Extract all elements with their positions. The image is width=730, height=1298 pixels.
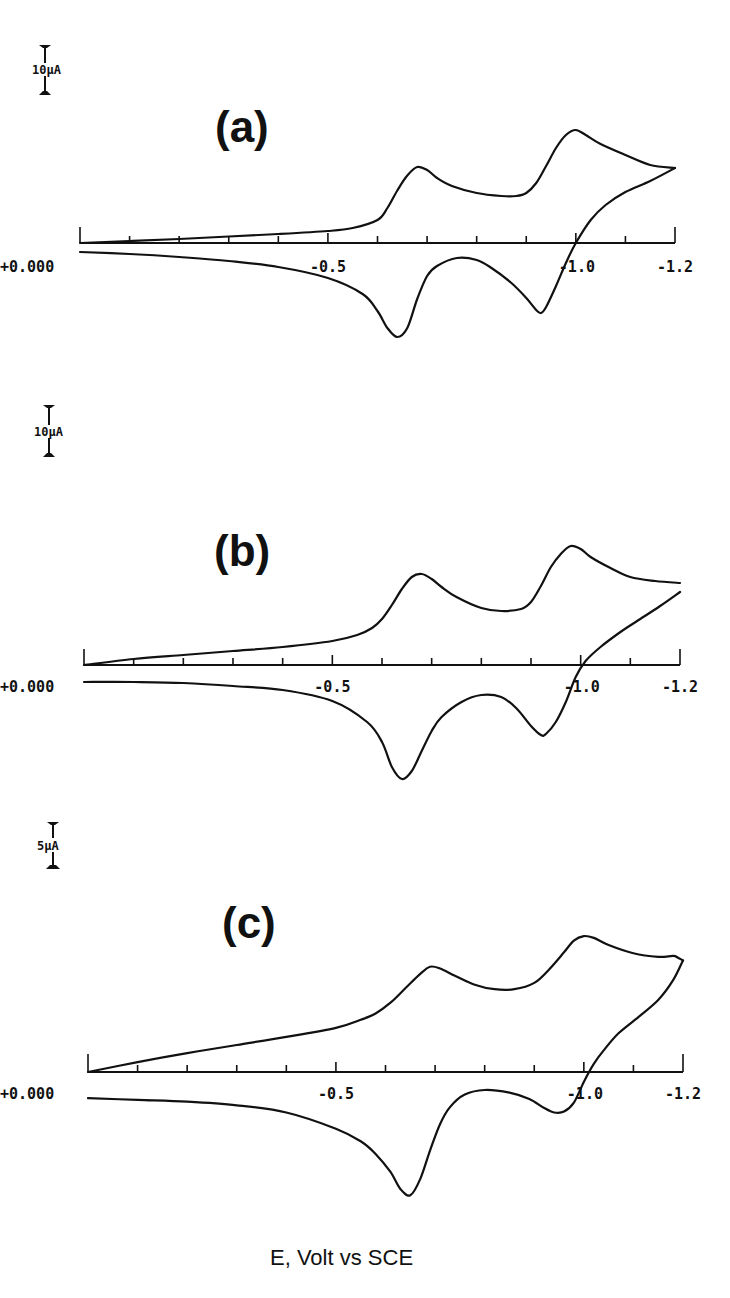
scale-bar-a: 10µA — [30, 45, 68, 95]
scale-bar-bottom-cap — [43, 453, 55, 457]
panel-label: (a) — [215, 102, 269, 151]
panel-a: 10µA (a) +0.000-0.5-1.0-1.2 — [0, 45, 693, 337]
x-tick-labels: +0.000-0.5-1.0-1.2 — [0, 258, 693, 276]
scale-bar-b: 10µA — [33, 405, 73, 457]
x-tick-label: +0.000 — [0, 678, 54, 696]
x-tick-label: +0.000 — [0, 1085, 54, 1103]
scale-bar-bottom-cap — [46, 865, 60, 869]
scale-bar-c: 5µA — [36, 822, 72, 869]
x-tick-label: +0.000 — [0, 258, 54, 276]
panel-label: (b) — [214, 526, 270, 575]
x-tick-labels: +0.000-0.5-1.0-1.2 — [0, 1085, 701, 1103]
panel-label: (c) — [222, 898, 276, 947]
panel-c: 5µA (c) +0.000-0.5-1.0-1.2 — [0, 822, 701, 1196]
x-tick-label: -1.2 — [662, 678, 698, 696]
cathodic-sweep-curve — [84, 546, 680, 665]
x-axis — [80, 227, 675, 243]
scale-bar-top-cap — [43, 405, 55, 408]
x-tick-label: -1.2 — [657, 258, 693, 276]
panel-b: 10µA (b) +0.000-0.5-1.0-1.2 — [0, 405, 698, 779]
cathodic-sweep-curve — [88, 936, 683, 1072]
curves — [80, 130, 675, 337]
scale-bar-top-cap — [39, 45, 51, 48]
voltammogram-figure: 10µA (a) +0.000-0.5-1.0-1.2 10µA (b) +0.… — [0, 0, 730, 1298]
scale-bar-bottom-cap — [39, 91, 51, 95]
scale-bar-label: 5µA — [37, 839, 59, 853]
anodic-sweep-curve — [88, 960, 683, 1195]
x-tick-label: -1.2 — [665, 1085, 701, 1103]
scale-bar-top-cap — [47, 822, 59, 825]
anodic-sweep-curve — [80, 168, 675, 337]
x-tick-label: -0.5 — [318, 1085, 354, 1103]
scale-bar-label: 10µA — [34, 425, 64, 439]
x-tick-label: -1.0 — [567, 1085, 603, 1103]
x-axis-title: E, Volt vs SCE — [270, 1245, 413, 1270]
x-tick-labels: +0.000-0.5-1.0-1.2 — [0, 678, 698, 696]
x-tick-label: -0.5 — [310, 258, 346, 276]
scale-bar-label: 10µA — [32, 63, 62, 77]
x-tick-label: -0.5 — [314, 678, 350, 696]
